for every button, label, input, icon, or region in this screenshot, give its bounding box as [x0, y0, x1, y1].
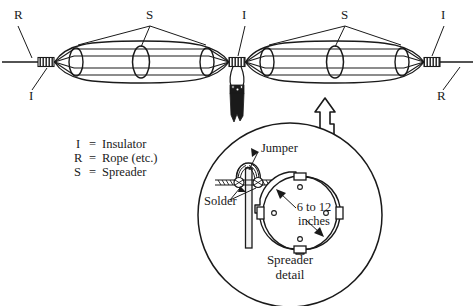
legend-eq-rope: =: [89, 151, 96, 165]
legend-key-spreader: S: [74, 165, 81, 179]
legend-key-rope: R: [74, 151, 83, 165]
hole-top: [298, 185, 303, 190]
label-jumper: Jumper: [261, 141, 299, 155]
label-spreader-left: S: [146, 7, 153, 22]
caption-line1: Spreader: [267, 252, 314, 267]
notch-left: [257, 207, 264, 219]
legend-value-insulator: Insulator: [102, 137, 147, 151]
label-spreader-right: S: [341, 7, 348, 22]
legend-value-rope: Rope (etc.): [102, 151, 158, 165]
notch-top: [294, 173, 306, 180]
legend-eq-spreader: =: [89, 165, 96, 179]
notch-right: [336, 207, 343, 219]
label-solder: Solder: [204, 194, 237, 208]
diagram-canvas: R I S I S I R I = Insulator R = Rope (et…: [0, 0, 475, 306]
insulator-center: [229, 58, 245, 67]
insulator-left: [38, 58, 54, 67]
legend-eq-insulator: =: [89, 137, 96, 151]
legend-value-spreader: Spreader: [102, 165, 147, 179]
spreader-antenna-diagram: R I S I S I R I = Insulator R = Rope (et…: [0, 0, 475, 306]
caption-line2: detail: [276, 267, 305, 282]
hole-left: [272, 211, 277, 216]
label-rope-right: R: [437, 88, 446, 103]
label-dimension-line1: 6 to 12: [297, 200, 332, 214]
label-insulator-center: I: [242, 7, 246, 22]
hole-bottom: [298, 237, 303, 242]
label-insulator-right: I: [441, 7, 445, 22]
insulator-right: [424, 58, 440, 67]
label-rope-left: R: [14, 7, 23, 22]
label-dimension-line2: inches: [298, 214, 330, 228]
label-insulator-left: I: [29, 88, 33, 103]
legend-key-insulator: I: [76, 137, 80, 151]
